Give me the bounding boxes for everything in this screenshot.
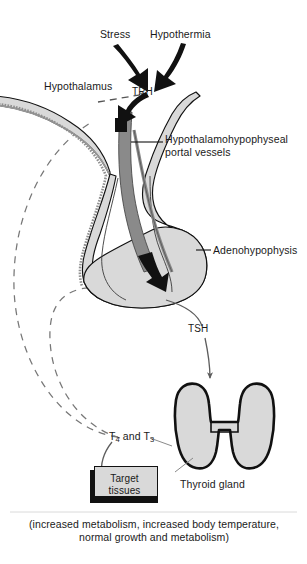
label-target-tissues: Target tissues (96, 473, 153, 497)
tsh-arrow (166, 300, 210, 378)
label-tsh: TSH (188, 323, 208, 335)
label-adenohypophysis: Adenohypophysis (213, 244, 297, 257)
feedback-loop-adenohypophysis (50, 287, 120, 438)
target-tissues-line-1: Target (110, 473, 138, 484)
label-stress: Stress (100, 28, 130, 41)
thyroid-axis-figure: Stress Hypothermia Hypothalamus TRH Hypo… (0, 0, 307, 564)
label-thyroid-gland: Thyroid gland (180, 478, 245, 491)
figure-caption: (increased metabolism, increased body te… (28, 518, 280, 545)
stress-arrow (113, 44, 148, 92)
label-trh: TRH (132, 86, 153, 98)
label-hypothalamus: Hypothalamus (44, 80, 112, 93)
hypothermia-arrow (154, 43, 186, 92)
label-hypothermia: Hypothermia (150, 28, 211, 41)
thyroid-gland-structure (175, 384, 274, 469)
label-thyroid-hormones: T4 and T3 (109, 430, 154, 444)
label-portal-vessels: Hypothalamohypophyseal portal vessels (165, 133, 305, 159)
pituitary-structure (0, 92, 207, 308)
target-tissues-line-2: tissues (109, 485, 141, 496)
t3-subscript: 3 (150, 435, 154, 444)
t-conjunction: and T (120, 430, 150, 442)
